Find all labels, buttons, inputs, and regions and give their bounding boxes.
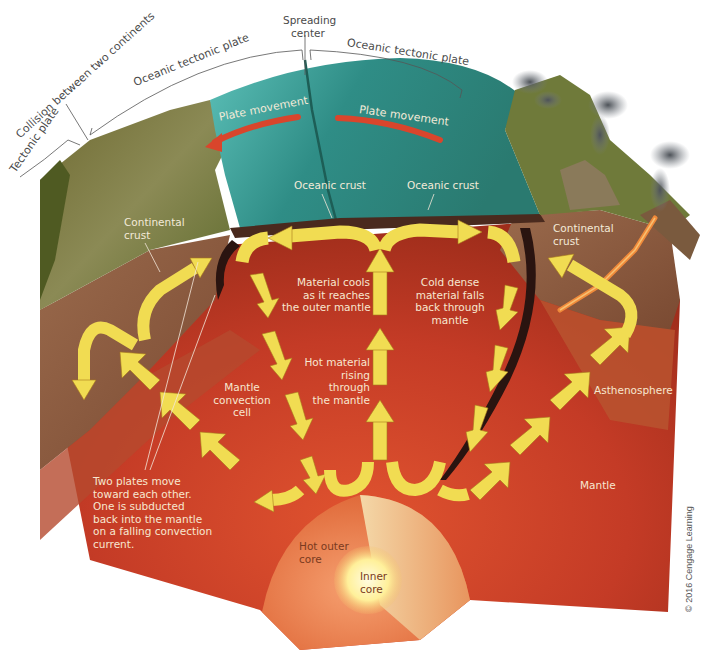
line: the outer mantle [282, 301, 370, 314]
line: Hot material [292, 356, 370, 369]
label-oceanic-crust-right: Oceanic crust [407, 179, 479, 192]
label-continental-crust-right: Continental crust [553, 222, 614, 247]
smoke-plume-1 [512, 70, 548, 94]
smoke-plume-3 [650, 141, 690, 169]
tectonics-diagram: Tectonic plate Collision between two con… [0, 0, 708, 665]
line: back through [410, 301, 490, 314]
smoke-plume-2 [588, 91, 628, 119]
label-subduction-note: Two plates move toward each other. One i… [93, 475, 212, 550]
label-hot-rising: Hot material rising through the mantle [292, 356, 370, 406]
line: as it reaches [282, 289, 370, 302]
copyright-credit: © 2016 Cengage Learning [684, 506, 694, 612]
line: rising [292, 369, 370, 382]
line: material falls [410, 289, 490, 302]
line: toward each other. [93, 488, 212, 501]
label-spreading-center: Spreading center [283, 14, 333, 39]
label-asthenosphere: Asthenosphere [594, 384, 673, 397]
label-continental-right-line2: crust [553, 235, 614, 248]
label-material-cools: Material cools as it reaches the outer m… [282, 276, 370, 314]
line: through [292, 381, 370, 394]
line: the mantle [292, 394, 370, 407]
label-continental-left-line1: Continental [124, 216, 185, 229]
label-cold-dense: Cold dense material falls back through m… [410, 276, 490, 326]
label-mantle: Mantle [580, 479, 616, 492]
label-convection-cell: Mantle convection cell [210, 381, 274, 419]
line: mantle [410, 314, 490, 327]
line: Inner [360, 570, 387, 583]
label-oceanic-crust-left: Oceanic crust [294, 179, 366, 192]
line: convection [210, 394, 274, 407]
line: cell [210, 406, 274, 419]
label-spreading-line1: Spreading [283, 14, 333, 27]
line: current. [93, 538, 212, 551]
label-outer-core: Hot outer core [299, 540, 349, 565]
leader-collision [66, 104, 88, 140]
line: core [299, 553, 349, 566]
line: Mantle [210, 381, 274, 394]
label-continental-left-line2: crust [124, 229, 185, 242]
line: Cold dense [410, 276, 490, 289]
label-continental-crust-left: Continental crust [124, 216, 185, 241]
label-spreading-line2: center [283, 27, 333, 40]
label-inner-core: Inner core [360, 570, 387, 595]
line: Material cools [282, 276, 370, 289]
line: Hot outer [299, 540, 349, 553]
line: Two plates move [93, 475, 212, 488]
line: core [360, 583, 387, 596]
diagram-artwork [0, 0, 708, 665]
oceanic-plate [210, 58, 540, 228]
line: One is subducted [93, 500, 212, 513]
line: on a falling convection [93, 525, 212, 538]
line: back into the mantle [93, 513, 212, 526]
label-continental-right-line1: Continental [553, 222, 614, 235]
